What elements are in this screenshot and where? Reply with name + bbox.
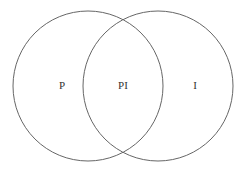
label-i: I [193,79,197,91]
left-circle [13,11,163,161]
label-p: P [59,79,65,91]
venn-diagram: P PI I [0,0,245,170]
label-pi: PI [118,79,128,91]
right-circle [83,11,233,161]
